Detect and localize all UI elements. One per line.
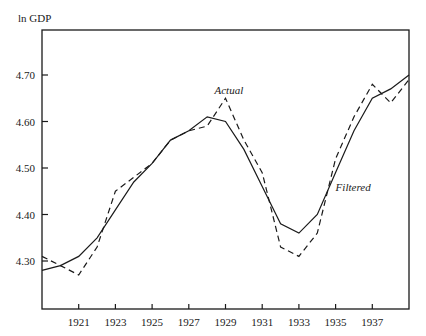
y-tick-label: 4.70 <box>16 69 36 81</box>
y-tick-label: 4.50 <box>16 162 36 174</box>
y-axis-ticks: 4.304.404.504.604.70 <box>16 69 48 267</box>
line-chart: ln GDP 4.304.404.504.604.70 192119231925… <box>0 0 426 336</box>
series-filtered-line <box>42 75 409 270</box>
series-actual-line <box>42 80 409 275</box>
x-tick-label: 1931 <box>251 316 273 328</box>
x-tick-label: 1927 <box>178 316 201 328</box>
x-tick-label: 1921 <box>68 316 90 328</box>
series-lines <box>42 75 409 275</box>
y-axis-label: ln GDP <box>18 12 51 24</box>
y-tick-label: 4.30 <box>16 255 36 267</box>
x-tick-label: 1937 <box>361 316 384 328</box>
plot-frame <box>42 30 409 309</box>
annotation-filtered: Filtered <box>335 181 372 193</box>
x-tick-label: 1923 <box>104 316 127 328</box>
y-tick-label: 4.40 <box>16 209 36 221</box>
x-tick-label: 1935 <box>325 316 348 328</box>
y-tick-label: 4.60 <box>16 116 36 128</box>
x-tick-label: 1925 <box>141 316 164 328</box>
annotation-actual: Actual <box>214 84 244 96</box>
x-tick-label: 1929 <box>215 316 238 328</box>
x-tick-label: 1933 <box>288 316 311 328</box>
x-axis-ticks: 192119231925192719291931193319351937 <box>68 304 384 328</box>
